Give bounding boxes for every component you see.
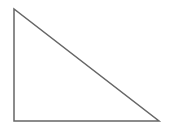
right-triangle xyxy=(14,9,159,121)
diagram-canvas xyxy=(0,0,170,125)
